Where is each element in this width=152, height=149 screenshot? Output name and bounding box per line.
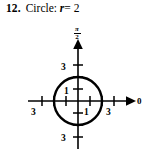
problem-label: Circle: — [26, 2, 57, 14]
y-tick-label-up-3: 3 — [61, 63, 66, 73]
y-tick-label-down-3: 3 — [61, 134, 66, 144]
y-tick-label-up-1: 1 — [64, 87, 69, 97]
problem-number: 12. — [6, 2, 21, 14]
polar-axis-label-zero: 0 — [137, 97, 142, 106]
pi-numerator: π — [71, 26, 83, 33]
y-axis — [73, 39, 83, 149]
figure-container: 12.Circle: r= 2 — [0, 0, 152, 149]
problem-heading: 12.Circle: r= 2 — [6, 1, 79, 15]
x-axis — [28, 96, 136, 106]
x-tick-label-left-3: 3 — [31, 108, 36, 118]
equation-remainder: = 2 — [64, 2, 79, 14]
x-tick-label-right-3: 3 — [106, 108, 111, 118]
x-tick-label-right-1: 1 — [84, 108, 89, 118]
vertical-axis-label-pi-over-2: π 2 — [71, 26, 83, 41]
pi-denominator: 2 — [71, 34, 83, 41]
